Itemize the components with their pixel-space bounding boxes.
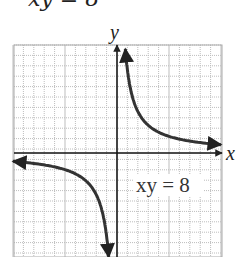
axes: [14, 45, 222, 257]
equation-label: xy = 8: [136, 173, 190, 197]
y-axis-label: y: [108, 21, 119, 44]
hyperbola-chart: xy = 8 x y: [0, 0, 250, 257]
x-axis-label: x: [225, 142, 235, 164]
